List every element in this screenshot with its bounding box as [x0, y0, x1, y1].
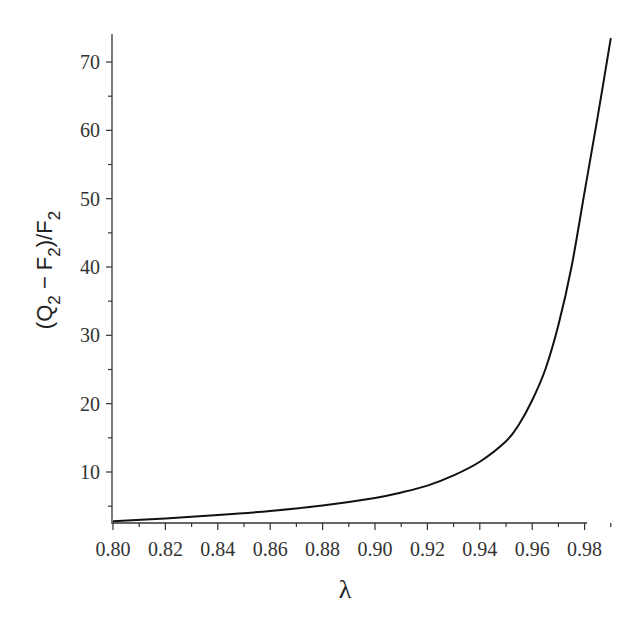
y-tick-label: 20 — [80, 393, 100, 415]
chart: 10203040506070 0.800.820.840.860.880.900… — [0, 0, 625, 626]
data-curve — [113, 38, 611, 521]
y-tick-label: 40 — [80, 256, 100, 278]
y-tick-label: 30 — [80, 324, 100, 346]
x-ticks: 0.800.820.840.860.880.900.920.940.960.98 — [96, 523, 611, 560]
y-tick-label: 50 — [80, 188, 100, 210]
x-tick-label: 0.92 — [410, 538, 445, 560]
y-label-subscript: 2 — [45, 247, 64, 256]
x-tick-label: 0.84 — [200, 538, 235, 560]
x-tick-label: 0.94 — [462, 538, 497, 560]
y-label-text: (Q — [32, 305, 57, 329]
y-label-text: − F — [32, 257, 57, 296]
y-label-subscript: 2 — [45, 295, 64, 304]
y-tick-label: 10 — [80, 461, 100, 483]
x-tick-label: 0.82 — [148, 538, 183, 560]
y-axis-label: (Q2 − F2)/F2 — [32, 211, 64, 329]
x-tick-label: 0.88 — [305, 538, 340, 560]
plot-area: 10203040506070 0.800.820.840.860.880.900… — [80, 34, 611, 560]
y-label-text: )/F — [32, 220, 57, 247]
x-tick-label: 0.96 — [515, 538, 550, 560]
x-axis-label: λ — [339, 575, 352, 604]
x-tick-label: 0.98 — [567, 538, 602, 560]
y-label-subscript: 2 — [45, 211, 64, 220]
y-ticks: 10203040506070 — [80, 51, 112, 506]
y-tick-label: 70 — [80, 51, 100, 73]
x-tick-label: 0.86 — [253, 538, 288, 560]
y-tick-label: 60 — [80, 119, 100, 141]
x-tick-label: 0.80 — [96, 538, 131, 560]
x-tick-label: 0.90 — [358, 538, 393, 560]
